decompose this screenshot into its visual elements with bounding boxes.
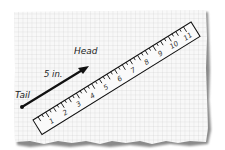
vector-diagram: 1 2 3 4 5 6 7 8 9 10 11 Head 5 in. Tail xyxy=(0,0,225,150)
head-label: Head xyxy=(74,46,98,56)
tail-label: Tail xyxy=(15,90,31,100)
tail-dot-icon xyxy=(20,105,24,109)
magnitude-label: 5 in. xyxy=(44,69,63,79)
